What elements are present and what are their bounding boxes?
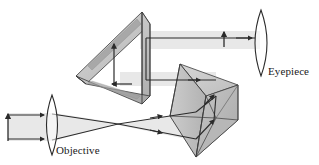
beam-upper-to-eyepiece: [140, 31, 260, 49]
eyepiece-lens-group: [255, 10, 267, 76]
diagram-canvas: Objective Eyepiece: [0, 0, 319, 165]
eyepiece-label: Eyepiece: [268, 65, 309, 77]
objective-label: Objective: [56, 144, 100, 156]
lower-porro-prism: [170, 64, 238, 157]
optical-diagram-figure: Objective Eyepiece: [0, 0, 319, 165]
upper-porro-prism: [76, 12, 150, 104]
eyepiece-lens: [255, 10, 267, 76]
